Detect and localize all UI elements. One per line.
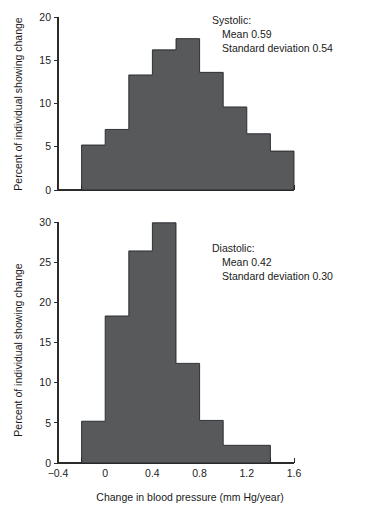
systolic-histogram-bars xyxy=(82,39,294,190)
systolic-annotation-line-3: Standard deviation 0.54 xyxy=(222,42,333,54)
diastolic-y-ticks: 051015202530 xyxy=(39,216,58,469)
y-tick-label: 25 xyxy=(39,256,51,268)
y-tick-label: 15 xyxy=(39,54,51,66)
diastolic-y-axis-label: Percent of individual showing change xyxy=(12,263,24,437)
diastolic-annotation-line-2: Mean 0.42 xyxy=(222,256,272,268)
x-tick-label: 0.8 xyxy=(192,467,207,479)
systolic-annotation-line-1: Systolic: xyxy=(212,14,251,26)
diastolic-panel: Percent of individual showing change 051… xyxy=(12,216,333,503)
x-tick-label: 0 xyxy=(102,467,108,479)
systolic-annotation: Systolic: Mean 0.59 Standard deviation 0… xyxy=(212,14,333,54)
y-tick-label: 5 xyxy=(45,417,51,429)
diastolic-annotation-line-1: Diastolic: xyxy=(212,242,255,254)
y-tick-label: 30 xyxy=(39,216,51,228)
x-tick-label: −0.4 xyxy=(48,467,69,479)
x-tick-label: 0.4 xyxy=(145,467,160,479)
y-tick-label: 5 xyxy=(45,140,51,152)
y-tick-label: 15 xyxy=(39,336,51,348)
x-tick-label: 1.6 xyxy=(287,467,302,479)
systolic-annotation-line-2: Mean 0.59 xyxy=(222,28,272,40)
blood-pressure-histogram-figure: Percent of individual showing change 051… xyxy=(0,0,366,513)
diastolic-annotation-line-3: Standard deviation 0.30 xyxy=(222,270,333,282)
diastolic-annotation: Diastolic: Mean 0.42 Standard deviation … xyxy=(212,242,333,282)
systolic-panel: Percent of individual showing change 051… xyxy=(12,11,333,196)
y-tick-label: 20 xyxy=(39,296,51,308)
x-tick-label: 1.2 xyxy=(239,467,254,479)
y-tick-label: 10 xyxy=(39,376,51,388)
y-tick-label: 10 xyxy=(39,97,51,109)
figure-canvas: Percent of individual showing change 051… xyxy=(0,0,366,513)
y-tick-label: 20 xyxy=(39,11,51,23)
systolic-y-ticks: 05101520 xyxy=(39,11,58,196)
y-tick-label: 0 xyxy=(45,184,51,196)
systolic-y-axis-label: Percent of individual showing change xyxy=(12,17,24,191)
x-axis-label: Change in blood pressure (mm Hg/year) xyxy=(96,491,283,503)
